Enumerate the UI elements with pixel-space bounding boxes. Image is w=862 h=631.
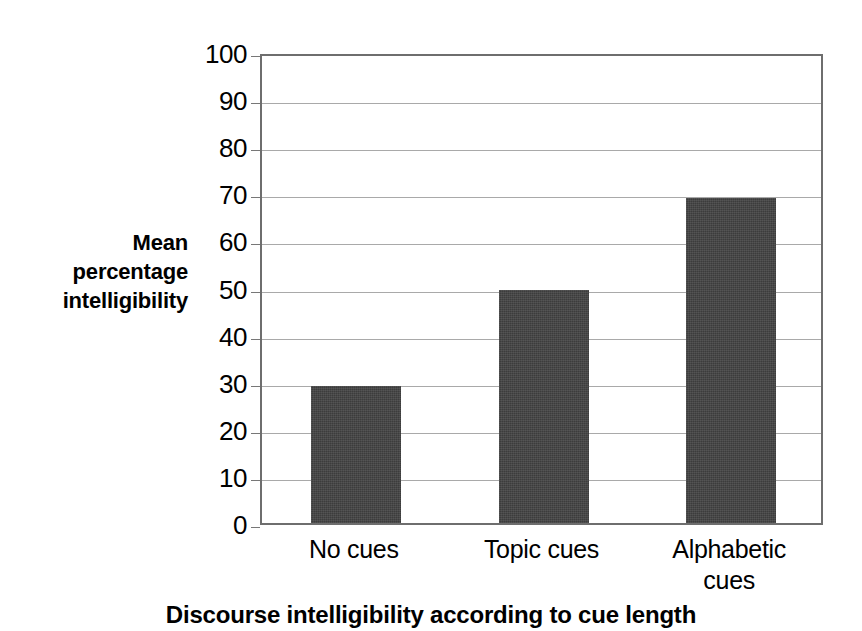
y-axis-tick-mark xyxy=(251,244,260,245)
y-axis-title-line-3: intelligibility xyxy=(8,286,188,315)
plot-area xyxy=(260,54,823,525)
x-axis-tick-label-line: Alphabetic xyxy=(635,534,823,565)
bar-topic-cues xyxy=(499,290,589,523)
y-axis-tick-mark xyxy=(251,56,260,57)
y-axis-tick-label: 50 xyxy=(177,277,247,303)
gridline xyxy=(262,103,821,104)
x-axis-tick-label-line: cues xyxy=(635,565,823,596)
y-axis-tick-mark xyxy=(251,433,260,434)
y-axis-tick-label: 20 xyxy=(177,418,247,444)
y-axis-title-line-2: percentage xyxy=(8,257,188,286)
y-axis-tick-mark xyxy=(251,480,260,481)
y-axis-tick-mark xyxy=(251,103,260,104)
x-axis-tick-labels: No cuesTopic cuesAlphabeticcues xyxy=(260,534,823,596)
bar-alphabetic-cues xyxy=(686,198,776,523)
y-axis-tick-label: 40 xyxy=(177,324,247,350)
bar-no-cues xyxy=(311,386,401,523)
x-axis-tick-label: No cues xyxy=(260,534,448,565)
x-axis-tick-label: Alphabeticcues xyxy=(635,534,823,596)
x-axis-tick-label-line: No cues xyxy=(260,534,448,565)
y-axis-tick-label: 70 xyxy=(177,182,247,208)
y-axis-tick-label: 0 xyxy=(177,512,247,538)
y-axis-tick-labels: 1009080706050403020100 xyxy=(173,0,247,631)
y-axis-tick-label: 90 xyxy=(177,88,247,114)
y-axis-tick-label: 60 xyxy=(177,229,247,255)
y-axis-tick-mark xyxy=(251,386,260,387)
y-axis-tick-mark xyxy=(251,339,260,340)
x-axis-tick-label-line: Topic cues xyxy=(448,534,636,565)
y-axis-tick-mark xyxy=(251,292,260,293)
y-axis-tick-label: 100 xyxy=(177,41,247,67)
chart-caption: Discourse intelligibility according to c… xyxy=(0,600,862,630)
gridline xyxy=(262,150,821,151)
y-axis-tick-label: 10 xyxy=(177,465,247,491)
y-axis-tick-mark xyxy=(251,527,260,528)
y-axis-tick-mark xyxy=(251,197,260,198)
y-axis-tick-label: 30 xyxy=(177,371,247,397)
y-axis-title-line-1: Mean xyxy=(8,228,188,257)
y-axis-tick-label: 80 xyxy=(177,135,247,161)
bar-chart-figure: Mean percentage intelligibility 10090807… xyxy=(0,0,862,631)
y-axis-tick-mark xyxy=(251,150,260,151)
y-axis-title: Mean percentage intelligibility xyxy=(8,228,188,315)
x-axis-tick-label: Topic cues xyxy=(448,534,636,565)
